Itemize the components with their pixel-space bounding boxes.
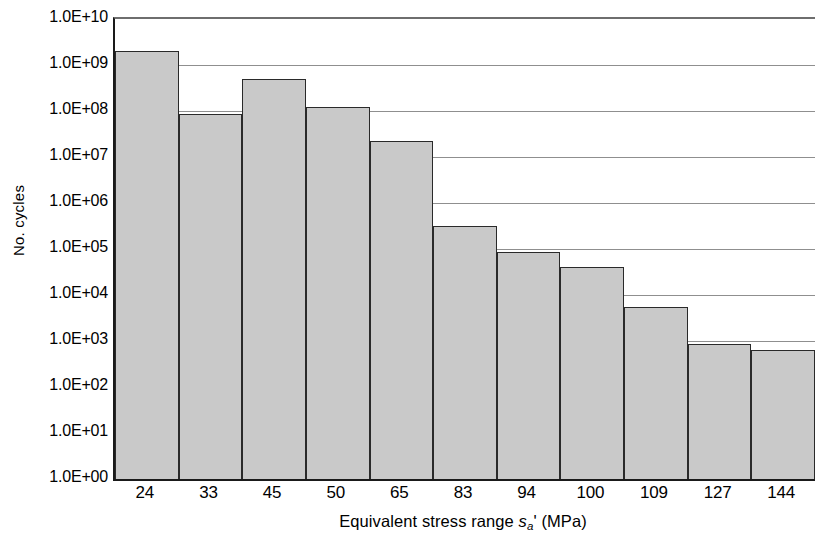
bar (370, 141, 434, 479)
x-axis-title-prefix: Equivalent stress range (339, 512, 518, 530)
x-axis-tick-labels: 24334550658394100109127144 (113, 482, 813, 508)
y-tick-label: 1.0E+05 (30, 239, 108, 255)
x-tick-label: 94 (495, 482, 559, 504)
y-tick-label: 1.0E+03 (30, 331, 108, 347)
x-tick-label: 100 (558, 482, 622, 504)
x-axis-title-suffix: ' (MPa) (533, 512, 586, 530)
bar (242, 79, 306, 479)
bar (560, 267, 624, 479)
bar (751, 350, 815, 479)
x-tick-label: 65 (368, 482, 432, 504)
y-tick-label: 1.0E+02 (30, 377, 108, 393)
bar (179, 114, 243, 479)
bar (306, 107, 370, 479)
x-tick-label: 144 (749, 482, 813, 504)
bar (497, 252, 561, 479)
bar (688, 344, 752, 479)
x-tick-label: 83 (431, 482, 495, 504)
bar (115, 51, 179, 479)
bar-series (115, 19, 815, 479)
y-tick-label: 1.0E+08 (30, 101, 108, 117)
y-tick-label: 1.0E+00 (30, 469, 108, 485)
x-axis-title-symbol: s (519, 512, 527, 530)
x-tick-label: 24 (113, 482, 177, 504)
y-tick-label: 1.0E+10 (30, 9, 108, 25)
y-tick-label: 1.0E+06 (30, 193, 108, 209)
x-tick-label: 45 (240, 482, 304, 504)
y-tick-label: 1.0E+01 (30, 423, 108, 439)
x-axis-title: Equivalent stress range sa' (MPa) (113, 512, 813, 532)
y-axis-title: No. cycles (10, 161, 27, 281)
x-tick-label: 127 (686, 482, 750, 504)
plot-area (113, 17, 815, 481)
x-tick-label: 50 (304, 482, 368, 504)
x-tick-label: 109 (622, 482, 686, 504)
bar (433, 226, 497, 479)
y-tick-label: 1.0E+04 (30, 285, 108, 301)
y-tick-label: 1.0E+09 (30, 55, 108, 71)
y-tick-label: 1.0E+07 (30, 147, 108, 163)
x-tick-label: 33 (177, 482, 241, 504)
y-axis-tick-labels: 1.0E+101.0E+091.0E+081.0E+071.0E+061.0E+… (30, 0, 108, 543)
bar (624, 307, 688, 479)
